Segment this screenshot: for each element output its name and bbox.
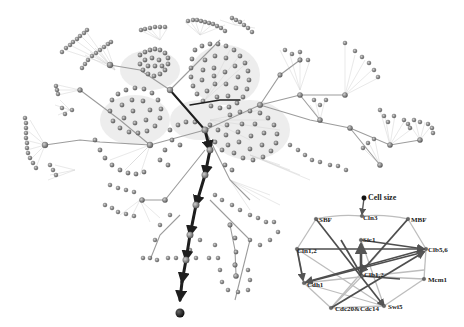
label-clb12: Clb1,2 bbox=[364, 271, 384, 279]
label-cln3: Cln3 bbox=[363, 214, 377, 222]
label-swi5: Swi5 bbox=[388, 303, 402, 311]
label-clb56: Clb5,6 bbox=[428, 246, 448, 254]
label-mcm1: Mcm1 bbox=[428, 276, 447, 284]
label-cdc20-cdc14: Cdc20&Cdc14 bbox=[335, 305, 379, 313]
label-cell-size: Cell size bbox=[368, 194, 396, 202]
cluster-top-left-1 bbox=[60, 28, 89, 54]
label-cln12: Cln1,2 bbox=[297, 247, 317, 255]
cluster-top-3 bbox=[230, 16, 254, 34]
cluster-top-1 bbox=[139, 25, 167, 32]
label-cdh1: Cdh1 bbox=[307, 281, 323, 289]
label-mbf: MBF bbox=[411, 216, 427, 224]
network-figure bbox=[0, 0, 464, 327]
label-sbf: SBF bbox=[319, 216, 332, 224]
pathway-endpoint-node bbox=[176, 309, 185, 318]
cluster-left bbox=[23, 84, 83, 177]
cluster-right bbox=[257, 41, 435, 172]
cluster-lower bbox=[103, 183, 280, 294]
label-sic1: Sic1 bbox=[363, 236, 375, 244]
cluster-top-left-2 bbox=[80, 40, 113, 70]
